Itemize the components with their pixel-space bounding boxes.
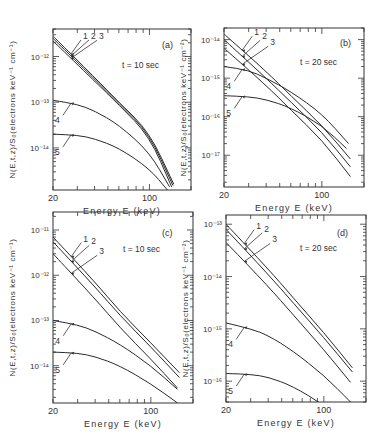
chart-panel-a: 10⁻¹²10⁻¹³10⁻¹⁴20100Energy E (keV)(a)t =… (8, 29, 191, 216)
figure-canvas: 10⁻¹²10⁻¹³10⁻¹⁴20100Energy E (keV)(a)t =… (0, 0, 388, 444)
panel-label: (b) (340, 38, 351, 48)
series-line-2 (53, 242, 179, 378)
y-tick-label: 10⁻¹² (31, 271, 50, 280)
series-label: 2 (91, 31, 96, 41)
series-label: 4 (55, 336, 60, 346)
x-tick-label: 100 (143, 406, 158, 416)
y-tick-label: 10⁻¹⁴ (203, 273, 223, 282)
leader-line (63, 353, 71, 365)
leader-line (63, 324, 71, 336)
time-annotation: t = 10 sec (123, 244, 161, 254)
series-label: 4 (55, 115, 60, 125)
leader-line (236, 327, 244, 339)
chart-panel-b: 10⁻¹⁴10⁻¹⁵10⁻¹⁶10⁻¹⁷20100Energy E (keV)(… (179, 27, 364, 213)
x-axis-label: Energy E (keV) (255, 203, 333, 213)
series-label: 1 (83, 31, 88, 41)
y-tick-label: 10⁻¹³ (204, 220, 223, 229)
y-tick-label: 10⁻¹⁶ (201, 113, 220, 122)
series-label: 4 (228, 339, 233, 349)
leader-line (71, 40, 97, 58)
series-label: 4 (226, 81, 231, 91)
series-label: 2 (91, 236, 96, 246)
series-label: 3 (99, 31, 104, 41)
x-tick-label: 100 (142, 193, 157, 203)
plot-frame (224, 28, 364, 187)
series-line-3 (224, 48, 350, 176)
leader-line (244, 233, 262, 249)
leader-line (71, 243, 81, 257)
series-label: 1 (254, 27, 259, 37)
y-tick-label: 10⁻¹³ (31, 98, 50, 107)
y-tick-label: 10⁻¹³ (31, 316, 50, 325)
plot-frame (53, 212, 193, 403)
y-tick-label: 10⁻¹⁵ (203, 325, 222, 334)
y-axis-label: N(E,t,z)/S₀(electrons keV⁻¹ cm⁻²) (181, 240, 190, 378)
y-tick-label: 10⁻¹⁴ (30, 362, 50, 371)
panel-label: (c) (162, 228, 173, 238)
panel-label: (d) (337, 228, 348, 238)
y-axis-label: N(E,t,z)/S₀(electrons keV⁻¹ cm⁻¹) (8, 41, 17, 179)
y-tick-label: 10⁻¹⁷ (202, 151, 221, 160)
x-tick-label: 100 (314, 190, 329, 200)
time-annotation: t = 20 sec (300, 57, 338, 67)
series-label: 5 (228, 386, 233, 396)
leader-line (63, 103, 71, 115)
y-tick-label: 10⁻¹⁵ (201, 74, 220, 83)
series-line-4 (53, 100, 170, 187)
chart-panel-c: 10⁻¹¹10⁻¹²10⁻¹³10⁻¹⁴20100Energy E (keV)(… (8, 212, 193, 429)
series-label: 5 (226, 108, 231, 118)
chart-panel-d: 10⁻¹³10⁻¹⁴10⁻¹⁵10⁻¹⁶20100Energy E (keV)(… (181, 215, 366, 428)
panel-label: (a) (162, 40, 173, 50)
series-line-5 (53, 134, 167, 190)
series-label: 1 (83, 234, 88, 244)
y-tick-label: 10⁻¹⁴ (201, 36, 221, 45)
series-line-5 (53, 352, 178, 403)
series-line-4 (226, 323, 351, 402)
series-label: 5 (55, 147, 60, 157)
time-annotation: t = 20 sec (300, 243, 338, 253)
leader-line (242, 36, 252, 50)
series-line-3 (226, 242, 351, 382)
series-label: 5 (55, 365, 60, 375)
leader-line (236, 374, 244, 386)
series-label: 3 (272, 234, 277, 244)
x-tick-label: 20 (48, 406, 58, 416)
x-axis-label: Energy E (keV) (257, 418, 335, 428)
series-label: 3 (99, 246, 104, 256)
y-axis-label: N(E,t,z)/S₀(electrons keV⁻¹ cm⁻²) (179, 39, 188, 177)
y-tick-label: 10⁻¹¹ (31, 226, 50, 235)
x-tick-label: 100 (316, 405, 331, 415)
series-label: 2 (262, 31, 267, 41)
x-axis-label: Energy E (keV) (84, 419, 162, 429)
series-line-1 (53, 237, 179, 373)
y-tick-label: 10⁻¹⁶ (203, 377, 222, 386)
leader-line (63, 135, 71, 147)
series-label: 2 (264, 224, 269, 234)
leader-line (234, 69, 242, 81)
leader-line (234, 96, 242, 108)
series-line-3 (53, 254, 178, 388)
x-tick-label: 20 (221, 405, 231, 415)
y-tick-label: 10⁻¹⁴ (30, 144, 50, 153)
x-tick-label: 20 (48, 193, 58, 203)
time-annotation: t = 10 sec (122, 60, 160, 70)
y-axis-label: N(E,t,z)/S₀(electrons keV⁻¹ cm⁻¹) (8, 239, 17, 377)
series-label: 1 (256, 221, 261, 231)
x-tick-label: 20 (219, 190, 229, 200)
series-label: 3 (270, 37, 275, 47)
y-tick-label: 10⁻¹² (31, 53, 50, 62)
